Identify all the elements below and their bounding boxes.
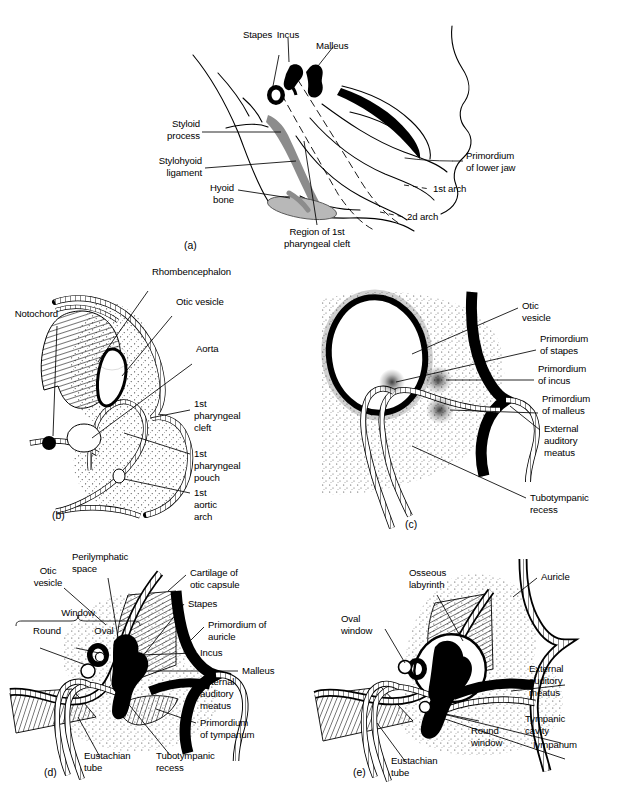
label-first-pouch-b-line1: 1st <box>194 448 207 459</box>
label-notochord-b: Notochord <box>8 308 58 319</box>
label-first-cleft-a-line1: Region of 1st <box>262 226 372 237</box>
label-oval-window-d: Oval <box>78 625 130 636</box>
panel-e-drawing <box>313 545 627 797</box>
label-hyoid-bone-a-line1: Hyoid <box>186 182 234 193</box>
leader-lines-a <box>202 38 463 225</box>
label-primordium-stapes-c-line1: Primordium <box>540 333 588 344</box>
label-primordium-stapes-c-line2: of stapes <box>540 345 578 356</box>
label-eam-d-line2: auditory <box>200 688 233 699</box>
panel-letter-a: (a) <box>184 240 197 251</box>
primordium-malleus-c <box>426 396 454 424</box>
label-eam-d-line1: External <box>200 676 234 687</box>
label-stylohyoid-ligament-a-line1: Stylohyoid <box>108 155 202 166</box>
label-primordium-auricle-d-line2: auricle <box>208 631 236 642</box>
label-hyoid-bone-a-line2: bone <box>186 194 234 205</box>
label-malleus-d: Malleus <box>242 665 274 676</box>
label-stapes-a: Stapes <box>243 29 272 40</box>
label-first-cleft-b-line3: cleft <box>194 422 211 433</box>
label-otic-vesicle-d-line1: Otic <box>26 565 70 576</box>
label-primordium-auricle-d-line1: Primordium of <box>208 619 266 630</box>
round-window-e <box>420 702 431 713</box>
label-tubotympanic-d-line1: Tubotympanic <box>156 750 215 761</box>
label-cartilage-otic-capsule-d-line1: Cartilage of <box>190 567 238 578</box>
label-eam-e-line2: auditory <box>529 675 562 686</box>
panel-a-drawing <box>0 0 627 258</box>
label-eustachian-tube-e-line1: Eustachian <box>391 755 437 766</box>
label-first-arch-a: 1st arch <box>433 183 466 194</box>
label-primordium-lower-jaw-a-line2: of lower jaw <box>466 162 515 173</box>
label-malleus-a: Malleus <box>316 40 348 51</box>
label-rhombencephalon-b: Rhombencephalon <box>152 266 231 277</box>
panel-c: Otic vesicle Primordium of stapes Primor… <box>300 280 627 543</box>
label-round-window-e-line2: window <box>471 737 502 748</box>
panel-b: Rhombencephalon Otic vesicle Notochord A… <box>0 258 313 543</box>
malleus-a <box>306 65 323 98</box>
panel-b-drawing <box>0 258 313 543</box>
label-eustachian-tube-d-line1: Eustachian <box>84 750 130 761</box>
label-perilymphatic-d-line1: Perilymphatic <box>72 551 128 562</box>
label-otic-vesicle-d-line2: vesicle <box>26 577 70 588</box>
label-eam-c-line2: auditory <box>544 435 577 446</box>
label-second-arch-a: 2d arch <box>407 211 438 222</box>
stapes-a <box>267 85 285 105</box>
label-eam-d-line3: meatus <box>200 700 231 711</box>
ear-development-figure: Incus Malleus Stapes Styloid process Sty… <box>0 0 627 797</box>
label-primordium-tympanum-d-line2: of tympanum <box>200 729 254 740</box>
label-primordium-malleus-c-line1: Primordium <box>542 393 590 404</box>
label-first-cleft-a-line2: pharyngeal cleft <box>262 238 372 249</box>
label-first-aortic-arch-b-line3: arch <box>194 511 212 522</box>
label-perilymphatic-d-line2: space <box>72 563 97 574</box>
label-cartilage-otic-capsule-d-line2: otic capsule <box>190 579 239 590</box>
label-primordium-tympanum-d-line1: Primordium <box>200 717 248 728</box>
label-aorta-b: Aorta <box>196 343 218 354</box>
label-tubotympanic-d-line2: recess <box>156 762 184 773</box>
label-first-aortic-arch-b-line1: 1st <box>194 487 207 498</box>
panel-letter-e: (e) <box>353 767 366 778</box>
label-tubotympanic-c-line2: recess <box>530 504 558 515</box>
label-oval-window-e-line1: Oval <box>341 613 360 624</box>
label-eustachian-tube-e-line2: tube <box>391 767 409 778</box>
panel-letter-d: (d) <box>44 767 57 778</box>
label-styloid-process-a-line1: Styloid <box>118 118 200 129</box>
label-primordium-incus-c-line2: of incus <box>538 375 570 386</box>
panel-letter-b: (b) <box>52 510 65 521</box>
label-primordium-lower-jaw-a-line1: Primordium <box>466 150 514 161</box>
label-otic-vesicle-c-line2: vesicle <box>522 312 551 323</box>
oval-window-d <box>96 653 105 662</box>
label-eam-e-line3: meatus <box>529 687 560 698</box>
label-incus-d: Incus <box>200 647 222 658</box>
label-round-window-e-line1: Round <box>471 725 499 736</box>
label-eam-c-line3: meatus <box>544 447 575 458</box>
label-first-pouch-b-line3: pouch <box>194 472 220 483</box>
label-primordium-malleus-c-line2: of malleus <box>542 405 585 416</box>
panel-letter-c: (c) <box>405 519 417 530</box>
label-first-aortic-arch-b-line2: aortic <box>194 499 217 510</box>
panel-a: Incus Malleus Stapes Styloid process Sty… <box>0 0 627 258</box>
label-window-d: Window <box>28 607 128 618</box>
label-otic-vesicle-c-line1: Otic <box>522 300 539 311</box>
round-window-d <box>81 664 95 678</box>
label-stylohyoid-ligament-a-line2: ligament <box>108 167 202 178</box>
label-eustachian-tube-d-line2: tube <box>84 762 102 773</box>
label-otic-vesicle-b: Otic vesicle <box>176 296 224 307</box>
panel-d: Otic vesicle Perilymphatic space Cartila… <box>0 545 313 797</box>
label-first-pouch-b-line2: pharyngeal <box>194 460 240 471</box>
panel-e: Osseous labyrinth Auricle Oval window Ex… <box>313 545 627 797</box>
label-osseous-labyrinth-e-line2: labyrinth <box>409 579 444 590</box>
label-eam-e-line1: External <box>529 663 563 674</box>
label-eam-c-line1: External <box>544 423 578 434</box>
label-round-window-d: Round <box>18 625 76 636</box>
label-osseous-labyrinth-e-line1: Osseous <box>409 567 446 578</box>
aortic-arch-b <box>113 469 125 483</box>
label-tympanic-cavity-e-line2: cavity <box>525 725 549 736</box>
label-oval-window-e-line2: window <box>341 625 372 636</box>
label-first-cleft-b-line1: 1st <box>194 398 207 409</box>
label-styloid-process-a-line2: process <box>118 130 200 141</box>
label-stapes-d: Stapes <box>188 598 217 609</box>
label-tympanic-cavity-e-line1: Tympanic <box>525 713 565 724</box>
label-auricle-e: Auricle <box>541 571 570 582</box>
label-primordium-incus-c-line1: Primordium <box>538 363 586 374</box>
aorta-b <box>67 424 101 452</box>
label-tympanum-e: Iympanum <box>533 739 577 750</box>
notochord-b <box>42 436 56 450</box>
